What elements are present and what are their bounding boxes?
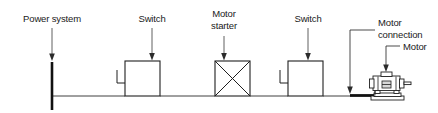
switch-2-leader	[305, 28, 311, 61]
label-motor-connection-line2: connection	[378, 29, 422, 40]
motor-leader	[383, 46, 400, 72]
label-motor-connection-line1: Motor	[378, 17, 402, 28]
label-motor: Motor	[403, 41, 427, 52]
motor-starter-leader	[221, 36, 227, 61]
label-motor-starter-line1: Motor	[212, 8, 236, 19]
diagram-canvas: Power system Switch Motor starter	[0, 0, 438, 113]
switch-2-symbol	[280, 61, 323, 96]
label-motor-starter-line2: starter	[211, 20, 237, 31]
motor-starter-symbol	[215, 61, 250, 96]
label-switch-2: Switch	[294, 13, 321, 24]
switch-1-leader	[149, 28, 155, 61]
switch-1-symbol	[117, 61, 160, 96]
label-switch-1: Switch	[138, 13, 165, 24]
motor-symbol	[370, 72, 412, 100]
label-power-system: Power system	[23, 13, 81, 24]
power-system-leader	[49, 28, 55, 61]
single-line-diagram: Power system Switch Motor starter	[0, 0, 438, 113]
